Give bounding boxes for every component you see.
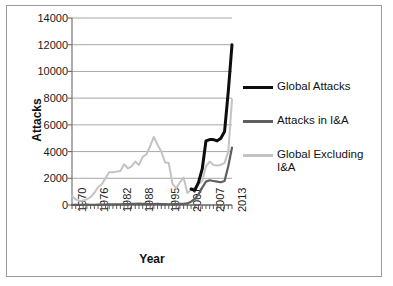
legend-label: Global Attacks xyxy=(277,80,383,93)
light-gray-line-swatch xyxy=(243,154,273,157)
legend-item-attacks-in-ia: Attacks in I&A xyxy=(243,114,383,127)
series-line-global-excluding-i-a xyxy=(72,99,232,201)
chart-legend: Global Attacks Attacks in I&A Global Exc… xyxy=(243,80,383,195)
series-line-attacks-in-i-a xyxy=(72,148,232,205)
legend-label: Attacks in I&A xyxy=(277,114,383,127)
legend-label: Global Excluding I&A xyxy=(277,148,383,174)
legend-item-global-attacks: Global Attacks xyxy=(243,80,383,93)
black-line-swatch xyxy=(243,86,273,89)
legend-item-global-excluding-ia: Global Excluding I&A xyxy=(243,148,383,174)
dark-gray-line-swatch xyxy=(243,120,273,123)
series-line-global-attacks xyxy=(191,45,232,191)
